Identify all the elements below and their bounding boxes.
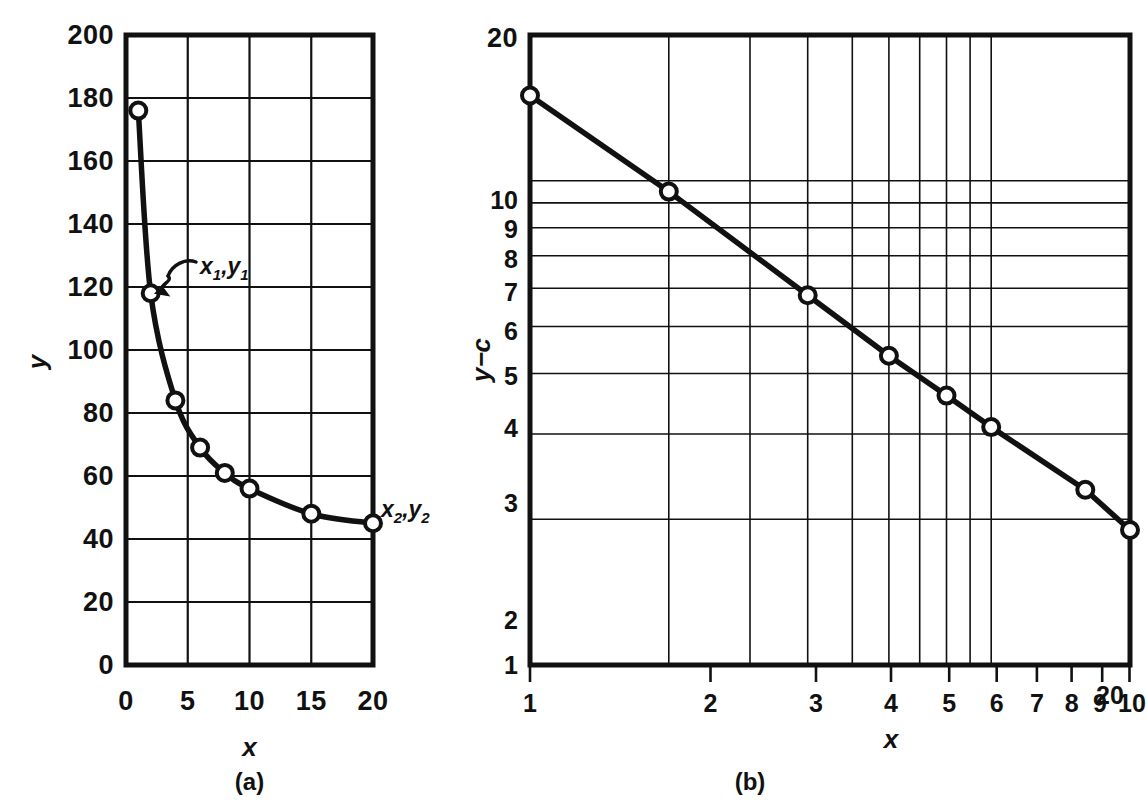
y-tick-180: 180 [67, 83, 114, 113]
x-tick-15: 15 [296, 686, 327, 716]
caption-a: (a) [235, 768, 264, 795]
y-tick-100: 100 [67, 335, 114, 365]
y-tick-10: 10 [490, 186, 518, 214]
panel-a: 200 180 160 140 120 100 80 60 40 20 0 y [0, 0, 470, 808]
y-tick-20: 20 [83, 587, 114, 617]
data-point [192, 440, 208, 456]
y-tick-80: 80 [83, 398, 114, 428]
y-tick-0: 0 [98, 650, 114, 680]
annotation-x1y1: x1,y1 [156, 253, 249, 295]
chart-b-x-axis-title: x [882, 724, 900, 754]
chart-a-svg: 200 180 160 140 120 100 80 60 40 20 0 y [0, 0, 470, 808]
y-tick-3: 3 [504, 489, 518, 517]
panel-b: 20 10 9 8 7 6 5 4 3 2 1 y−c [460, 0, 1146, 808]
chart-b-vertical-gridlines [669, 35, 991, 665]
y-tick-60: 60 [83, 461, 114, 491]
x-tick-2: 2 [704, 689, 718, 717]
chart-b-plot-frame [530, 35, 1130, 665]
chart-a-data-markers [130, 103, 381, 532]
data-point [167, 392, 183, 408]
x-tick-5: 5 [180, 686, 196, 716]
chart-a-x-axis-title: x [240, 732, 258, 762]
chart-b-y-axis-title: y−c [466, 337, 496, 384]
caption-b: (b) [735, 768, 766, 795]
data-point [217, 465, 233, 481]
y-tick-2: 2 [504, 606, 518, 634]
y-tick-200: 200 [67, 20, 114, 50]
y-tick-20: 20 [487, 23, 518, 53]
data-point [522, 88, 538, 104]
data-point [303, 506, 319, 522]
x-tick-6: 6 [990, 689, 1004, 717]
x-tick-4: 4 [884, 689, 898, 717]
y-tick-140: 140 [67, 209, 114, 239]
x-tick-10: 10 [234, 686, 265, 716]
data-point [800, 287, 816, 303]
chart-b-x-tick-20-label: 20 [1096, 681, 1124, 710]
data-point [242, 481, 258, 497]
y-tick-120: 120 [67, 272, 114, 302]
data-point [881, 348, 897, 364]
x-tick-8: 8 [1065, 689, 1079, 717]
y-tick-160: 160 [67, 146, 114, 176]
y-tick-4: 4 [504, 414, 518, 442]
chart-b-x-ticklabels: 1 2 3 4 5 6 7 8 9 10 [523, 689, 1146, 717]
chart-a-y-ticklabels: 200 180 160 140 120 100 80 60 40 20 0 [67, 20, 114, 680]
y-tick-8: 8 [504, 245, 518, 273]
data-point [130, 103, 146, 119]
chart-b-x-tickmarks [530, 665, 1130, 682]
data-point [983, 419, 999, 435]
annotation-label-x1y1: x1,y1 [198, 253, 249, 283]
chart-a-y-axis-title: y [22, 353, 52, 371]
data-point [661, 184, 677, 200]
chart-b-data-line [530, 96, 1130, 531]
chart-a-data-curve-render [138, 111, 373, 524]
y-tick-5: 5 [504, 362, 518, 390]
x-tick-3: 3 [809, 689, 823, 717]
chart-b-svg: 20 10 9 8 7 6 5 4 3 2 1 y−c [460, 0, 1146, 808]
x-tick-20: 20 [357, 686, 388, 716]
y-tick-7: 7 [504, 278, 518, 306]
figure-container: 200 180 160 140 120 100 80 60 40 20 0 y [0, 0, 1146, 808]
y-tick-6: 6 [504, 317, 518, 345]
data-point [1077, 482, 1093, 498]
chart-a-x-ticklabels: 0 5 10 15 20 [118, 686, 388, 716]
y-tick-1: 1 [504, 651, 518, 679]
x-tick-5: 5 [942, 689, 956, 717]
data-point [1122, 522, 1138, 538]
y-tick-9: 9 [504, 215, 518, 243]
x-tick-1: 1 [523, 689, 537, 717]
annotation-arrow-curve [168, 261, 196, 276]
data-point [365, 515, 381, 531]
annotation-label-x2y2: x2,y2 [379, 496, 430, 526]
annotation-arrow-kink [162, 276, 169, 287]
y-tick-40: 40 [83, 524, 114, 554]
x-tick-0: 0 [118, 686, 134, 716]
chart-b-horizontal-gridlines [530, 181, 1130, 519]
data-point [939, 388, 955, 404]
x-tick-7: 7 [1030, 689, 1044, 717]
annotation-x2y2: x2,y2 [379, 496, 430, 526]
